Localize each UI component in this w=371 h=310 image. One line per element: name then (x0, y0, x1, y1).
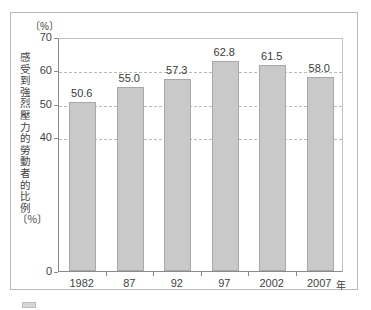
y-axis-tick-mark (54, 138, 58, 139)
y-axis-tick-mark (54, 71, 58, 72)
y-axis-tick-mark (54, 38, 58, 39)
x-axis-tick-label: 87 (105, 277, 153, 289)
y-axis-tick-label: 70 (28, 31, 52, 43)
x-axis-tick-label: 1982 (58, 277, 106, 289)
chart-figure: 〔%〕 感受到強烈壓力的勞動者的比例〔％〕 70605040050.619825… (0, 0, 371, 310)
y-axis-tick-mark (54, 272, 58, 273)
y-axis-tick-mark (54, 105, 58, 106)
bar-value-label: 50.6 (60, 87, 104, 99)
x-axis-tick-mark (201, 272, 202, 276)
bar (117, 87, 144, 271)
y-axis-tick-label: 0 (28, 265, 52, 277)
bar (212, 61, 239, 271)
y-axis-tick-label: 60 (28, 64, 52, 76)
x-axis-tick-label: 92 (153, 277, 201, 289)
y-axis-title: 感受到強烈壓力的勞動者的比例〔％〕 (17, 52, 33, 257)
bar-value-label: 55.0 (107, 72, 151, 84)
y-axis-tick-label: 40 (28, 131, 52, 143)
gridline (59, 139, 342, 140)
x-axis-tick-label: 2002 (248, 277, 296, 289)
bar (164, 79, 191, 271)
bar (307, 77, 334, 271)
x-axis-tick-mark (106, 272, 107, 276)
bar-value-label: 58.0 (297, 62, 341, 74)
x-axis-tick-mark (248, 272, 249, 276)
x-axis-title: 年 (336, 277, 346, 292)
figure-caption-row (14, 299, 354, 310)
bar-value-label: 62.8 (202, 46, 246, 58)
x-axis-tick-label: 97 (200, 277, 248, 289)
gridline (59, 106, 342, 107)
bar (69, 102, 96, 271)
y-axis-tick-label: 50 (28, 98, 52, 110)
x-axis-tick-mark (296, 272, 297, 276)
caption-swatch-icon (22, 302, 36, 308)
bar-value-label: 61.5 (250, 50, 294, 62)
x-axis-tick-mark (153, 272, 154, 276)
bar-value-label: 57.3 (155, 64, 199, 76)
bar (259, 65, 286, 271)
